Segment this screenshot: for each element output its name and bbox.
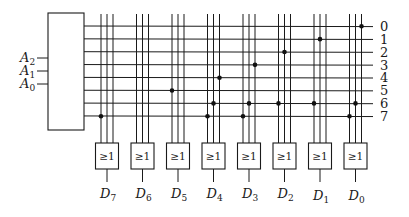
gate-symbol: ≥1 [241, 150, 256, 162]
output-label-D6: D6 [135, 186, 152, 203]
bit-lines [101, 14, 362, 143]
gate-symbol: ≥1 [206, 150, 221, 162]
or-gate-D7: ≥1D7 [96, 143, 119, 203]
diagram-canvas: A2A1A0 01234567 ≥1D7≥1D6≥1D5≥1D4≥1D3≥1D2… [0, 0, 409, 217]
connection-dot [205, 114, 210, 119]
output-label-D1: D1 [312, 188, 329, 205]
word-line-6 [84, 103, 373, 104]
row-label-7: 7 [380, 109, 388, 124]
or-gate-D5: ≥1D5 [167, 143, 190, 203]
output-label-D0: D0 [348, 188, 365, 205]
connection-dot [241, 114, 246, 119]
gate-symbol: ≥1 [99, 150, 114, 162]
connection-dot [99, 114, 104, 119]
or-gate-D4: ≥1D4 [202, 143, 225, 203]
decoder-block: A2A1A0 [19, 13, 84, 130]
connection-dot [312, 101, 317, 106]
gate-symbol: ≥1 [277, 150, 292, 162]
gate-symbol: ≥1 [348, 150, 363, 162]
or-gate-D3: ≥1D3 [238, 143, 261, 203]
gate-symbol: ≥1 [135, 150, 150, 162]
output-label-D4: D4 [206, 186, 223, 203]
gate-symbol: ≥1 [170, 150, 185, 162]
word-line-0 [84, 26, 373, 27]
output-label-D2: D2 [277, 186, 294, 203]
word-line-4 [84, 77, 373, 78]
decoder-or-array-diagram: A2A1A0 01234567 ≥1D7≥1D6≥1D5≥1D4≥1D3≥1D2… [0, 0, 409, 217]
word-lines: 01234567 [84, 19, 388, 124]
gate-symbol: ≥1 [312, 150, 327, 162]
or-gate-D2: ≥1D2 [273, 143, 296, 203]
connection-dot [211, 101, 216, 106]
output-label-D7: D7 [99, 186, 116, 203]
connection-dot [276, 101, 281, 106]
connection-dot [253, 63, 258, 68]
output-label-D5: D5 [170, 186, 187, 203]
or-gates: ≥1D7≥1D6≥1D5≥1D4≥1D3≥1D2≥1D1≥1D0 [96, 143, 368, 205]
or-gate-D6: ≥1D6 [131, 143, 154, 203]
output-label-D3: D3 [241, 186, 258, 203]
word-line-5 [84, 90, 373, 91]
word-line-7 [84, 116, 373, 117]
word-line-2 [84, 52, 373, 53]
connection-dot [347, 114, 352, 119]
connection-dot [282, 50, 287, 55]
connection-dot [247, 101, 252, 106]
connection-dot [359, 24, 364, 29]
word-line-3 [84, 65, 373, 66]
connection-dot [318, 37, 323, 42]
decoder-box [48, 13, 84, 130]
connection-dot [170, 88, 175, 93]
connection-dots [99, 24, 364, 119]
or-gate-D0: ≥1D0 [344, 143, 367, 205]
connection-dot [353, 101, 358, 106]
or-gate-D1: ≥1D1 [309, 143, 332, 205]
connection-dot [217, 75, 222, 80]
word-line-1 [84, 39, 373, 40]
